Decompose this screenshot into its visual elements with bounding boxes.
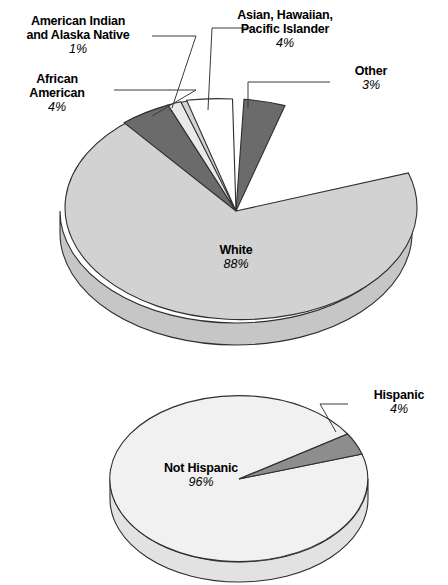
label-hispanic: Hispanic 4% [352, 388, 446, 416]
label-hispanic-name: Hispanic [352, 388, 446, 402]
label-white: White 88% [186, 243, 286, 271]
label-hispanic-percent: 4% [352, 402, 446, 416]
label-american-indian: American Indian and Alaska Native 1% [2, 14, 154, 56]
label-african-american-line1: African [2, 72, 112, 86]
label-other: Other 3% [318, 64, 424, 92]
label-other-percent: 3% [318, 78, 424, 92]
label-american-indian-line2: and Alaska Native [2, 28, 154, 42]
race-slice-white [65, 100, 417, 320]
label-asian: Asian, Hawaiian, Pacific Islander 4% [200, 8, 370, 50]
label-asian-line2: Pacific Islander [200, 22, 370, 36]
two-pie-chart-figure: American Indian and Alaska Native 1% Afr… [0, 0, 448, 585]
label-not-hispanic-name: Not Hispanic [140, 461, 262, 475]
label-not-hispanic-percent: 96% [140, 475, 262, 489]
label-not-hispanic: Not Hispanic 96% [140, 461, 262, 489]
race-slice-other [236, 99, 285, 211]
label-african-american: African American 4% [2, 72, 112, 114]
label-other-name: Other [318, 64, 424, 78]
label-white-percent: 88% [186, 257, 286, 271]
label-african-american-percent: 4% [2, 100, 112, 114]
leader-line-american-indian [152, 36, 196, 108]
label-american-indian-line1: American Indian [2, 14, 154, 28]
label-asian-line1: Asian, Hawaiian, [200, 8, 370, 22]
label-american-indian-percent: 1% [2, 42, 154, 56]
label-white-name: White [186, 243, 286, 257]
label-asian-percent: 4% [200, 36, 370, 50]
label-african-american-line2: American [2, 86, 112, 100]
